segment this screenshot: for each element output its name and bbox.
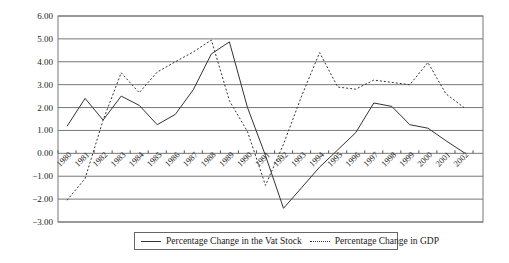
x-tick-label: 2002 bbox=[451, 150, 470, 169]
y-axis-ticks: 6.005.004.003.002.001.000.00−1.00−2.00−3… bbox=[32, 11, 53, 227]
x-tick-label: 1998 bbox=[379, 150, 398, 169]
x-tick-label: 1987 bbox=[181, 150, 200, 169]
x-tick-label: 1988 bbox=[199, 150, 218, 169]
plot-area-border bbox=[58, 16, 483, 222]
vat-stock-line bbox=[67, 42, 464, 208]
x-tick-label: 1999 bbox=[397, 150, 416, 169]
y-tick-label: 3.00 bbox=[37, 80, 53, 90]
legend-item-gdp: Percentage Change in GDP bbox=[310, 236, 439, 246]
y-tick-label: 6.00 bbox=[37, 11, 53, 21]
y-tick-label: −3.00 bbox=[32, 217, 53, 227]
legend: Percentage Change in the Vat Stock Perce… bbox=[134, 232, 398, 250]
y-tick-label: 4.00 bbox=[37, 57, 53, 67]
x-tick-label: 1984 bbox=[127, 149, 147, 169]
x-tick-label: 2000 bbox=[415, 150, 434, 169]
y-tick-label: −1.00 bbox=[32, 171, 53, 181]
dotted-line-swatch-icon bbox=[310, 241, 330, 242]
x-tick-label: 2001 bbox=[433, 150, 452, 169]
x-tick-label: 1989 bbox=[217, 150, 236, 169]
y-tick-label: 5.00 bbox=[37, 34, 53, 44]
y-tick-label: 0.00 bbox=[37, 148, 53, 158]
x-tick-label: 1994 bbox=[307, 149, 327, 169]
legend-item-vat-stock: Percentage Change in the Vat Stock bbox=[141, 236, 302, 246]
y-tick-label: 2.00 bbox=[37, 103, 53, 113]
line-chart: 6.005.004.003.002.001.000.00−1.00−2.00−3… bbox=[0, 0, 509, 263]
x-tick-label: 1980 bbox=[54, 150, 73, 169]
gridlines bbox=[58, 16, 483, 222]
legend-label: Percentage Change in the Vat Stock bbox=[166, 236, 302, 246]
data-series bbox=[67, 40, 464, 208]
x-tick-label: 1982 bbox=[90, 150, 109, 169]
y-tick-label: −2.00 bbox=[32, 194, 53, 204]
y-tick-label: 1.00 bbox=[37, 125, 53, 135]
x-tick-label: 1993 bbox=[289, 150, 308, 169]
x-tick-label: 1997 bbox=[361, 150, 380, 169]
x-tick-label: 1986 bbox=[163, 150, 182, 169]
x-tick-label: 1996 bbox=[343, 150, 362, 169]
legend-label: Percentage Change in GDP bbox=[335, 236, 439, 246]
x-tick-label: 1983 bbox=[108, 150, 127, 169]
solid-line-swatch-icon bbox=[141, 241, 161, 242]
x-tick-label: 1990 bbox=[235, 150, 254, 169]
x-tick-label: 1985 bbox=[145, 150, 164, 169]
